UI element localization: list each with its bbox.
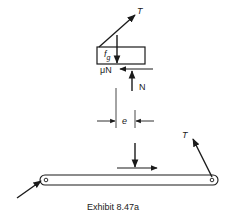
tension-label-upper: T <box>137 6 144 16</box>
free-body-diagram: T fg μN N e T Exhibit 8.47a <box>0 0 227 215</box>
normal-label: N <box>139 82 146 92</box>
friction-label: μN <box>100 65 112 75</box>
upper-block-group: T fg μN N e <box>97 6 154 128</box>
pin-left <box>44 178 48 182</box>
bar <box>40 175 218 185</box>
caption: Exhibit 8.47a <box>87 202 139 212</box>
reaction-arrow-left <box>17 181 41 198</box>
eccentricity-label: e <box>122 116 127 126</box>
tension-label-lower: T <box>182 130 189 140</box>
tension-arrow-lower <box>193 139 212 177</box>
pin-right <box>210 178 214 182</box>
lower-bar-group: T <box>17 130 218 198</box>
weight-label: fg <box>104 49 111 62</box>
